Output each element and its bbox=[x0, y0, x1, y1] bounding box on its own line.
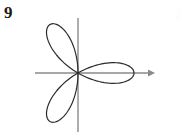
scan-edge-artifact bbox=[176, 9, 181, 21]
polar-rose-plot bbox=[0, 0, 183, 139]
x-axis-arrowhead-icon bbox=[148, 69, 155, 76]
figure-container: 9 bbox=[0, 0, 183, 139]
axes-group bbox=[35, 18, 155, 132]
